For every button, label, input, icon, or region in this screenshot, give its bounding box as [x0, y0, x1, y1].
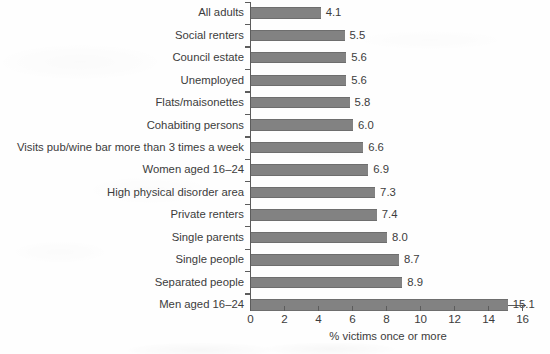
bar-value-label: 5.8: [355, 97, 371, 108]
bar-value-label: 7.4: [382, 210, 398, 221]
x-axis-tick-label: 0: [247, 313, 253, 325]
y-axis-tick: [245, 2, 251, 3]
y-axis-tick: [245, 91, 251, 92]
x-axis-tick: [352, 306, 353, 312]
bar-row: Single parents8.0: [0, 227, 550, 249]
category-label: High physical disorder area: [107, 187, 244, 198]
y-axis-tick: [245, 249, 251, 250]
bar: [251, 75, 346, 86]
category-label: Single parents: [172, 232, 244, 243]
category-label: Council estate: [172, 52, 244, 63]
x-axis-tick-label: 16: [516, 313, 529, 325]
plot-area: All adults4.1Social renters5.5Council es…: [0, 0, 550, 354]
bar-value-label: 6.0: [358, 120, 374, 131]
bar: [251, 119, 353, 130]
bar-value-label: 8.7: [404, 255, 420, 266]
bar: [251, 277, 402, 288]
category-label: Women aged 16–24: [142, 165, 244, 176]
bar-row: Flats/maisonettes5.8: [0, 92, 550, 114]
bar-value-label: 15.1: [513, 300, 535, 311]
bar-row: Unemployed5.6: [0, 69, 550, 91]
y-axis-tick: [245, 24, 251, 25]
x-axis-tick: [386, 306, 387, 312]
bar-row: High physical disorder area7.3: [0, 182, 550, 204]
bar-row: Separated people8.9: [0, 272, 550, 294]
category-label: Cohabiting persons: [147, 120, 244, 131]
bar-row: Cohabiting persons6.0: [0, 114, 550, 136]
bar-row: Women aged 16–246.9: [0, 159, 550, 181]
y-axis-tick: [245, 159, 251, 160]
bar: [251, 142, 363, 153]
bar-row: Single people8.7: [0, 249, 550, 271]
bar-row: All adults4.1: [0, 2, 550, 24]
x-axis-tick: [522, 306, 523, 312]
bar: [251, 254, 399, 265]
x-axis-tick: [250, 306, 251, 312]
y-axis-tick: [245, 293, 251, 294]
bar: [251, 164, 368, 175]
bar: [251, 52, 346, 63]
bar-row: Social renters5.5: [0, 24, 550, 46]
bar-row: Private renters7.4: [0, 204, 550, 226]
x-axis-tick-label: 12: [448, 313, 461, 325]
bar-value-label: 5.6: [351, 75, 367, 86]
bar-value-label: 8.0: [392, 232, 408, 243]
x-axis-tick-label: 6: [349, 313, 355, 325]
bar-value-label: 5.5: [350, 30, 366, 41]
x-axis-tick: [284, 306, 285, 312]
bar: [251, 232, 387, 243]
category-label: Men aged 16–24: [159, 300, 244, 311]
y-axis-tick: [245, 271, 251, 272]
y-axis-tick: [245, 46, 251, 47]
x-axis-title: % victims once or more: [250, 331, 526, 342]
bar-value-label: 6.9: [373, 165, 389, 176]
category-label: Unemployed: [181, 75, 244, 86]
x-axis-tick: [454, 306, 455, 312]
bar: [251, 299, 508, 310]
x-axis-tick: [420, 306, 421, 312]
bar-value-label: 7.3: [380, 187, 396, 198]
bar-value-label: 8.9: [407, 277, 423, 288]
bar-row: Council estate5.6: [0, 47, 550, 69]
x-axis-tick-label: 8: [383, 313, 389, 325]
y-axis-tick: [245, 114, 251, 115]
category-label: Visits pub/wine bar more than 3 times a …: [17, 142, 244, 153]
bar-row: Visits pub/wine bar more than 3 times a …: [0, 137, 550, 159]
bar: [251, 187, 375, 198]
bar: [251, 97, 350, 108]
bar: [251, 209, 377, 220]
x-axis-tick-label: 2: [281, 313, 287, 325]
x-axis-tick-label: 10: [414, 313, 427, 325]
y-axis-tick: [245, 136, 251, 137]
y-axis-tick: [245, 181, 251, 182]
bar: [251, 30, 345, 41]
bar-chart-figure: All adults4.1Social renters5.5Council es…: [0, 0, 550, 354]
bar: [251, 7, 321, 18]
category-label: Single people: [176, 255, 244, 266]
category-label: Separated people: [155, 277, 244, 288]
category-label: Private renters: [171, 210, 244, 221]
x-axis-tick: [318, 306, 319, 312]
y-axis-tick: [245, 204, 251, 205]
category-label: Social renters: [175, 30, 244, 41]
y-axis-tick: [245, 226, 251, 227]
x-axis-tick-label: 4: [315, 313, 321, 325]
bar-row: Men aged 16–2415.1: [0, 294, 550, 316]
y-axis-tick: [245, 69, 251, 70]
x-axis-tick-label: 14: [482, 313, 495, 325]
category-label: Flats/maisonettes: [155, 97, 244, 108]
x-axis-tick: [488, 306, 489, 312]
bar-value-label: 4.1: [326, 8, 342, 19]
bar-value-label: 6.6: [368, 142, 384, 153]
category-label: All adults: [198, 8, 244, 19]
bar-value-label: 5.6: [351, 52, 367, 63]
